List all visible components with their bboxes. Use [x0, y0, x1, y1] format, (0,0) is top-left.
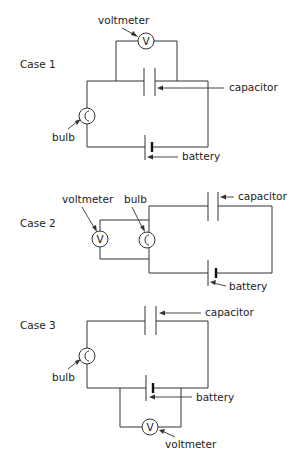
case-2-capacitor-label: capacitor: [238, 190, 288, 202]
case-3-main-wire: [87, 321, 208, 388]
case-3-label: Case 3: [20, 319, 56, 331]
case-1-capacitor-symbol: [144, 68, 155, 96]
case-1-voltmeter-icon: V: [138, 33, 154, 49]
case-2-bulb-icon: [139, 232, 155, 248]
case-3-capacitor-symbol: [145, 306, 156, 335]
case-3-voltmeter-label: voltmeter: [165, 438, 217, 450]
case-1-battery-label: battery: [182, 150, 220, 162]
case-3-voltmeter-icon: V: [142, 419, 158, 435]
case-2-label: Case 2: [20, 217, 56, 229]
case-1-capacitor-label: capacitor: [229, 81, 279, 93]
case-2-circuit: Case 2 V voltmeter bulb capac: [20, 190, 288, 292]
case-2-main-wire: [149, 206, 272, 273]
case-3-battery-label: battery: [196, 391, 234, 403]
case-2-voltmeter-symbol: V: [96, 233, 104, 245]
case-2-battery-label: battery: [229, 280, 267, 292]
case-2-bulb-label: bulb: [124, 193, 147, 205]
case-2-capacitor-symbol: [208, 192, 218, 221]
case-1-main-wire: [87, 81, 208, 147]
case-1-circuit: Case 1 V voltmeter capacitor: [20, 14, 279, 162]
case-3-voltmeter-symbol: V: [146, 421, 154, 433]
case-3-bulb-icon: [79, 348, 95, 364]
case-1-label: Case 1: [20, 58, 56, 70]
case-1-voltmeter-symbol: V: [142, 35, 150, 47]
case-3-bulb-label: bulb: [52, 371, 75, 383]
case-2-voltmeter-label: voltmeter: [62, 193, 114, 205]
case-1-bulb-icon: [79, 108, 95, 124]
case-1-voltmeter-label: voltmeter: [98, 14, 150, 26]
case-2-voltmeter-icon: V: [92, 231, 108, 247]
case-3-capacitor-label: capacitor: [205, 306, 255, 318]
circuit-diagram-figure: Case 1 V voltmeter capacitor: [0, 0, 294, 450]
case-3-circuit: Case 3 V capacitor bulb batte: [20, 306, 255, 450]
case-1-bulb-label: bulb: [52, 131, 75, 143]
